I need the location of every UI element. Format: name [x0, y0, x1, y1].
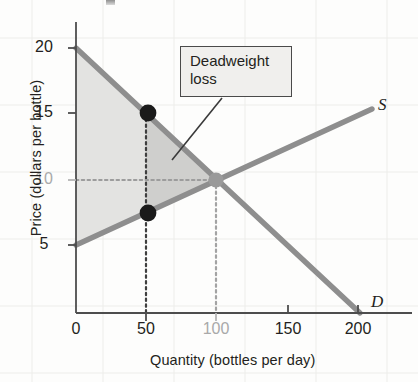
x-tick-label-100: 100	[196, 320, 236, 338]
y-axis-title: Price (dollars per bottle)	[28, 43, 44, 273]
x-axis-title: Quantity (bottles per day)	[150, 352, 315, 368]
callout-line-2: loss	[190, 70, 283, 88]
x-tick-label-150: 150	[268, 320, 308, 338]
deadweight-loss-figure: Deadweight loss S D 20 15 10 5 0 50 100 …	[0, 0, 418, 382]
deadweight-loss-callout: Deadweight loss	[180, 46, 292, 97]
x-tick-label-200: 200	[338, 320, 378, 338]
equilibrium-dot	[208, 172, 223, 187]
callout-leader-line	[172, 98, 222, 160]
x-tick-label-50: 50	[126, 320, 166, 338]
supply-marker-dot	[140, 205, 157, 222]
y-axis-ticks	[68, 48, 76, 245]
demand-curve-label: D	[371, 292, 383, 312]
demand-marker-dot	[140, 105, 157, 122]
x-tick-label-0: 0	[56, 320, 96, 338]
callout-line-1: Deadweight	[190, 52, 283, 70]
supply-curve-label: S	[378, 95, 387, 115]
